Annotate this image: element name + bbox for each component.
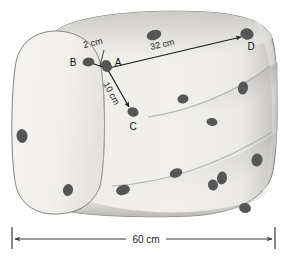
label-width: 60 cm <box>132 234 159 245</box>
point-label-d: D <box>247 41 254 52</box>
point-a-marker <box>102 62 112 72</box>
width-dimension: 60 cm <box>12 227 275 249</box>
diagram-canvas: 32 cm 10 cm 2 cm B A C D <box>0 0 287 256</box>
point-label-a: A <box>115 57 122 68</box>
cheese-block <box>12 11 278 217</box>
point-label-c: C <box>129 121 136 132</box>
cheese-diagram: 32 cm 10 cm 2 cm B A C D <box>0 0 287 256</box>
point-label-b: B <box>70 57 77 68</box>
